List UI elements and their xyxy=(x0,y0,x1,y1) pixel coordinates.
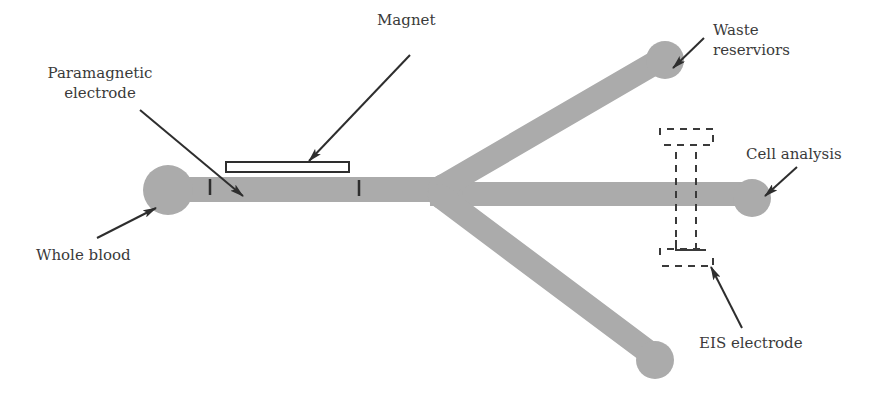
middle-branch xyxy=(430,182,755,206)
microfluidic-diagram: Magnet Paramagnetic electrode Waste rese… xyxy=(0,0,883,396)
label-eis-electrode: EIS electrode xyxy=(699,333,803,353)
eis-electrode-top-pad xyxy=(660,129,713,145)
label-magnet: Magnet xyxy=(377,10,435,30)
label-waste-line2: reserviors xyxy=(713,40,790,60)
label-waste-reservoirs: Waste reserviors xyxy=(713,20,790,60)
arrow-eis-electrode xyxy=(711,267,742,328)
waste-reservoir-lower xyxy=(636,341,674,379)
arrow-cell-analysis xyxy=(765,167,797,196)
magnet xyxy=(226,162,349,172)
eis-electrode-bottom-pad xyxy=(660,249,713,266)
label-paramagnetic-line1: Paramagnetic xyxy=(35,63,165,83)
arrow-magnet xyxy=(309,55,410,161)
label-whole-blood: Whole blood xyxy=(36,245,131,265)
arrow-whole-blood xyxy=(97,208,156,238)
label-waste-line1: Waste xyxy=(713,20,790,40)
waste-reservoir-upper xyxy=(646,41,684,79)
whole-blood-inlet-reservoir xyxy=(143,165,193,215)
label-paramagnetic-line2: electrode xyxy=(35,83,165,103)
upper-branch xyxy=(440,60,660,188)
lower-branch xyxy=(440,196,655,357)
cell-analysis-reservoir xyxy=(733,179,771,217)
label-cell-analysis: Cell analysis xyxy=(746,144,842,164)
label-paramagnetic-electrode: Paramagnetic electrode xyxy=(35,63,165,103)
